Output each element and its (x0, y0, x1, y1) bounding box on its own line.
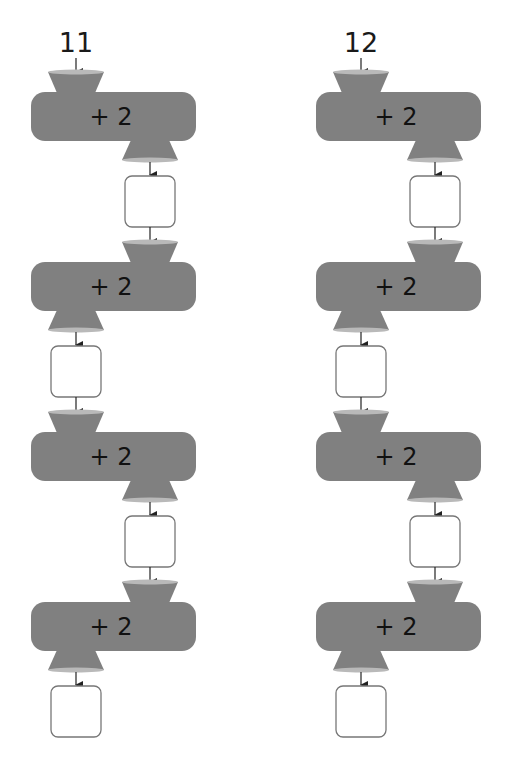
machine-chain: 11+ 2+ 2+ 2+ 2 (31, 27, 196, 737)
operation-label: + 2 (89, 443, 132, 471)
answer-box[interactable] (410, 516, 460, 567)
output-funnel (333, 310, 389, 333)
answer-box[interactable] (51, 346, 101, 397)
answer-box[interactable] (336, 686, 386, 737)
funnel-rim (333, 328, 389, 333)
operation-label: + 2 (89, 273, 132, 301)
output-funnel (122, 140, 178, 163)
input-funnel (407, 240, 463, 264)
output-funnel (407, 140, 463, 163)
funnel-rim (122, 498, 178, 503)
funnel-rim (122, 580, 178, 585)
input-funnel (48, 410, 104, 434)
function-machine: + 2 (31, 240, 196, 413)
answer-box[interactable] (125, 176, 175, 227)
operation-label: + 2 (89, 103, 132, 131)
funnel-rim (333, 668, 389, 673)
answer-box[interactable] (125, 516, 175, 567)
function-machine: + 2 (316, 410, 481, 583)
answer-box[interactable] (410, 176, 460, 227)
funnel-rim (122, 240, 178, 245)
operation-label: + 2 (89, 613, 132, 641)
input-funnel (333, 410, 389, 434)
input-funnel (407, 580, 463, 604)
funnel-rim (407, 158, 463, 163)
output-funnel (122, 480, 178, 503)
function-machine: + 2 (316, 240, 481, 413)
output-funnel (333, 650, 389, 673)
input-funnel (122, 580, 178, 604)
output-funnel (407, 480, 463, 503)
function-machine: + 2 (31, 410, 196, 583)
funnel-rim (48, 328, 104, 333)
answer-box[interactable] (336, 346, 386, 397)
input-funnel (333, 70, 389, 94)
funnel-rim (48, 410, 104, 415)
start-number: 12 (344, 27, 378, 58)
start-number: 11 (59, 27, 93, 58)
funnel-rim (48, 668, 104, 673)
function-machine: + 2 (31, 70, 196, 243)
funnel-rim (333, 70, 389, 75)
funnel-rim (333, 410, 389, 415)
funnel-rim (48, 70, 104, 75)
operation-label: + 2 (374, 273, 417, 301)
funnel-rim (122, 158, 178, 163)
input-funnel (48, 70, 104, 94)
funnel-rim (407, 240, 463, 245)
answer-box[interactable] (51, 686, 101, 737)
machine-chain: 12+ 2+ 2+ 2+ 2 (316, 27, 481, 737)
input-funnel (122, 240, 178, 264)
function-machine: + 2 (316, 70, 481, 243)
funnel-rim (407, 580, 463, 585)
funnel-rim (407, 498, 463, 503)
output-funnel (48, 310, 104, 333)
operation-label: + 2 (374, 443, 417, 471)
operation-label: + 2 (374, 103, 417, 131)
function-machine: + 2 (316, 580, 481, 738)
function-machine: + 2 (31, 580, 196, 738)
function-machine-diagram: 11+ 2+ 2+ 2+ 212+ 2+ 2+ 2+ 2 (0, 0, 508, 776)
operation-label: + 2 (374, 613, 417, 641)
output-funnel (48, 650, 104, 673)
